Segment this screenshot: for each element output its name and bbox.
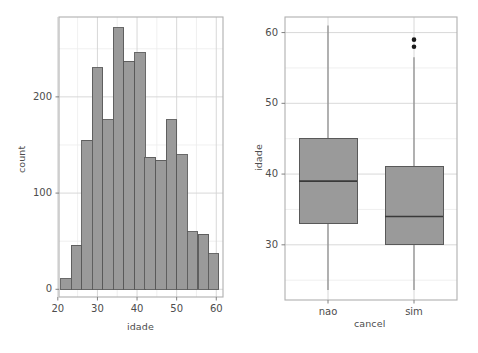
histogram-ytick-100: 100	[21, 187, 52, 198]
histogram-xtick-30: 30	[82, 303, 112, 314]
histogram-xtick-40: 40	[122, 303, 152, 314]
boxplot-ytick-50: 50	[247, 97, 278, 108]
figure-root: count idade 20304050600100200 idade canc…	[0, 0, 478, 353]
histogram-ytick-200: 200	[21, 91, 52, 102]
boxplot-xtick-nao: nao	[306, 306, 350, 317]
boxplot-x-axis-title: cancel	[354, 318, 385, 329]
histogram-plot-area	[0, 0, 239, 353]
boxplot-ytick-40: 40	[247, 168, 278, 179]
boxplot-xtick-sim: sim	[392, 306, 436, 317]
histogram-y-axis-title: count	[16, 146, 27, 173]
boxplot-panel: idade cancel 30405060naosim	[239, 0, 478, 353]
boxplot-y-axis-title: idade	[253, 144, 264, 171]
histogram-xtick-20: 20	[43, 303, 73, 314]
histogram-x-axis-title: idade	[127, 321, 154, 332]
histogram-xtick-50: 50	[162, 303, 192, 314]
boxplot-ytick-60: 60	[247, 27, 278, 38]
histogram-panel: count idade 20304050600100200	[0, 0, 239, 353]
histogram-xtick-60: 60	[201, 303, 231, 314]
boxplot-ytick-30: 30	[247, 239, 278, 250]
histogram-ytick-0: 0	[21, 283, 52, 294]
